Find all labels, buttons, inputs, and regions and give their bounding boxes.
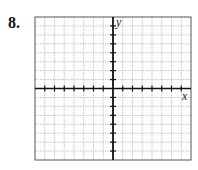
coordinate-grid: xy	[0, 0, 198, 170]
y-axis-label: y	[115, 15, 122, 29]
x-axis-label: x	[181, 89, 188, 103]
